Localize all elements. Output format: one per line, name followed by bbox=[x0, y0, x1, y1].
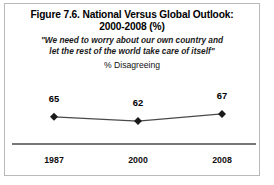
figure-title-line-1: Figure 7.6. National Versus Global Outlo… bbox=[5, 9, 259, 21]
figure-title: Figure 7.6. National Versus Global Outlo… bbox=[5, 9, 259, 33]
figure-container: Figure 7.6. National Versus Global Outlo… bbox=[4, 3, 260, 176]
series-line bbox=[54, 114, 222, 121]
data-point-value-label: 62 bbox=[133, 97, 143, 108]
data-point-marker[interactable] bbox=[134, 117, 142, 125]
quote-line-2: let the rest of the world take care of i… bbox=[5, 46, 259, 57]
x-axis-tick-label: 1987 bbox=[44, 155, 64, 165]
data-point-value-label: 67 bbox=[217, 90, 227, 101]
data-series-group bbox=[50, 110, 226, 125]
figure-title-line-2: 2000-2008 (%) bbox=[5, 21, 259, 33]
figure-subtitle-quote: "We need to worry about our own country … bbox=[5, 35, 259, 56]
data-point-value-label: 65 bbox=[49, 93, 59, 104]
y-axis-unit-label: % Disagreeing bbox=[5, 60, 259, 71]
x-axis-tick-label: 2008 bbox=[212, 155, 232, 165]
data-point-marker[interactable] bbox=[218, 110, 226, 118]
x-axis-tick-label: 2000 bbox=[128, 155, 148, 165]
data-point-marker[interactable] bbox=[50, 113, 58, 121]
quote-line-1: "We need to worry about our own country … bbox=[5, 35, 259, 46]
